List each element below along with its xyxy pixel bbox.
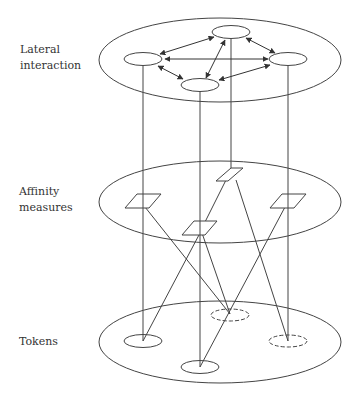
- layered-network-diagram: [0, 0, 361, 399]
- lateral-node-bottom: [181, 79, 219, 92]
- lateral-node-top: [212, 26, 250, 39]
- link-left-to-dashed-token: [145, 207, 230, 314]
- lateral-node-right: [269, 53, 307, 66]
- link-right-to-bottom-token: [200, 207, 285, 367]
- link-top-to-bottomcenter: [205, 180, 226, 222]
- link-bottomcenter-to-left-token: [143, 233, 200, 341]
- lateral-node-left: [124, 53, 162, 66]
- link-bottomcenter-to-dashed-token: [202, 233, 230, 314]
- affinity-node-top: [216, 168, 243, 181]
- tokens-layer-plane: [99, 301, 341, 383]
